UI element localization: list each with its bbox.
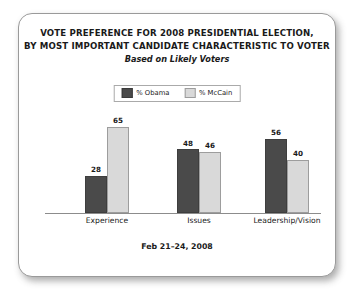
bar-value-label: 40	[283, 149, 313, 158]
bar-column: 48	[177, 100, 199, 213]
bar-group: 4846	[177, 100, 221, 213]
mccain-swatch-icon	[184, 88, 195, 98]
bar-mccain	[199, 152, 221, 213]
legend-entry-mccain: % McCain	[184, 88, 232, 98]
chart-title-line-1: VOTE PREFERENCE FOR 2008 PRESIDENTIAL EL…	[19, 27, 335, 40]
bar-column: 46	[199, 100, 221, 213]
chart-title-block: VOTE PREFERENCE FOR 2008 PRESIDENTIAL EL…	[19, 27, 335, 66]
chart-plot-area: 286548465640	[45, 100, 321, 213]
category-label: Leadership/Vision	[227, 216, 335, 225]
chart-title-line-2: BY MOST IMPORTANT CANDIDATE CHARACTERIST…	[19, 40, 335, 53]
bar-value-label: 65	[103, 116, 133, 125]
chart-screenshot: VOTE PREFERENCE FOR 2008 PRESIDENTIAL EL…	[0, 0, 354, 296]
bar-column: 65	[107, 100, 129, 213]
legend-entry-obama: % Obama	[122, 88, 170, 98]
obama-swatch-icon	[122, 88, 133, 98]
bar-obama	[85, 176, 107, 213]
chart-footer-date: Feb 21–24, 2008	[19, 242, 335, 251]
legend-label-obama: % Obama	[136, 89, 169, 97]
chart-card: VOTE PREFERENCE FOR 2008 PRESIDENTIAL EL…	[18, 13, 336, 277]
legend-label-mccain: % McCain	[199, 89, 232, 97]
bar-column: 40	[287, 100, 309, 213]
chart-card-inner: VOTE PREFERENCE FOR 2008 PRESIDENTIAL EL…	[19, 14, 335, 276]
bar-mccain	[107, 127, 129, 213]
chart-subtitle: Based on Likely Voters	[19, 53, 335, 66]
bar-obama	[177, 149, 199, 213]
bar-value-label: 46	[195, 141, 225, 150]
chart-baseline-axis	[45, 213, 321, 214]
bar-group: 5640	[265, 100, 309, 213]
bar-mccain	[287, 160, 309, 213]
bar-group: 2865	[85, 100, 129, 213]
